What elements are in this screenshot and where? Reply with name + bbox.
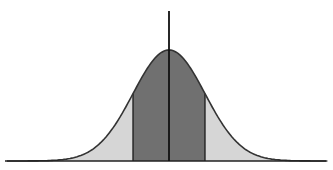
normal-distribution-chart xyxy=(0,0,333,170)
left-tail-region xyxy=(43,94,133,161)
